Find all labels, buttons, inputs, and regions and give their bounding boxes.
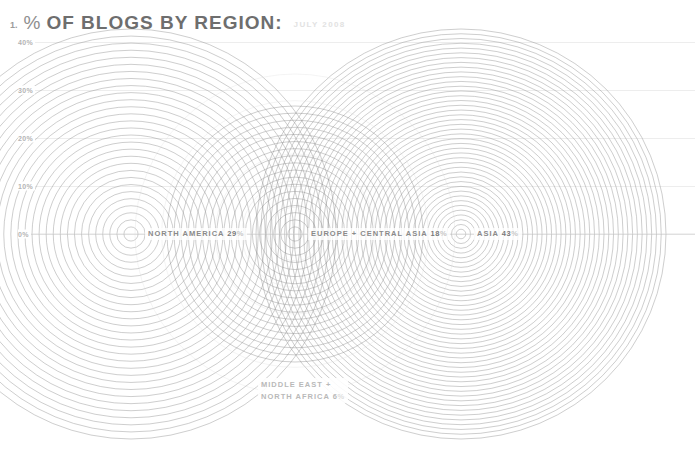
y-axis-tick-40: 40% (18, 38, 35, 47)
region-value-north-america: 29% (227, 229, 244, 238)
region-label-north-america: NORTH AMERICA 29% (145, 228, 247, 240)
y-axis-tick-10: 10% (18, 182, 35, 191)
region-name-north-america: NORTH AMERICA (148, 229, 224, 238)
region-name-middle-east-line1: MIDDLE EAST + (261, 379, 345, 391)
chart-header: 1. % OF BLOGS BY REGION: JULY 2008 (10, 12, 346, 34)
region-value-asia: 43% (502, 229, 519, 238)
figure-number: 1. (10, 20, 18, 30)
infographic-canvas: 40%30%20%10%0% 1. % OF BLOGS BY REGION: … (0, 0, 695, 449)
y-axis-tick-0: 0% (18, 230, 31, 239)
region-label-europe-central-asia: EUROPE + CENTRAL ASIA 18% (308, 228, 450, 240)
region-name-europe-central-asia: EUROPE + CENTRAL ASIA (311, 229, 427, 238)
region-label-middle-east-north-africa: MIDDLE EAST + NORTH AFRICA 6% (258, 378, 348, 403)
region-value-europe-central-asia: 18% (430, 229, 447, 238)
chart-subtitle: JULY 2008 (294, 20, 346, 29)
region-label-asia: ASIA 43% (474, 228, 522, 240)
percent-symbol: % (24, 12, 41, 34)
region-name-middle-east-line2: NORTH AFRICA 6% (261, 391, 345, 403)
y-axis-tick-30: 30% (18, 86, 35, 95)
page-title: OF BLOGS BY REGION: (46, 12, 282, 34)
y-axis-tick-20: 20% (18, 134, 35, 143)
region-name-asia: ASIA (477, 229, 499, 238)
